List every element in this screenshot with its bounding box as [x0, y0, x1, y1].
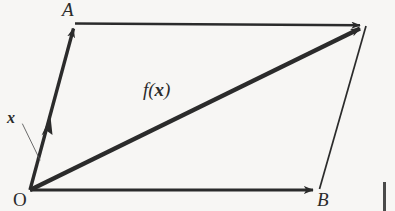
label-fx-prefix: f( — [143, 79, 155, 100]
label-output-vector-fx: f(x) — [143, 80, 170, 99]
vector-oa-line — [30, 29, 74, 191]
label-fx-argument: x — [155, 79, 165, 100]
label-input-vector-x: x — [7, 110, 15, 126]
label-origin: O — [13, 190, 27, 209]
right-edge-tick-mark — [383, 182, 386, 211]
vector-diagram-figure: A B O x f(x) — [0, 0, 395, 211]
leader-line-x — [23, 124, 41, 160]
vector-fx-line — [30, 29, 360, 191]
edge-a-to-c-line — [75, 24, 360, 26]
edge-b-to-c-line — [320, 26, 367, 189]
label-vertex-b: B — [317, 190, 329, 209]
label-vertex-a: A — [62, 0, 74, 19]
diagram-canvas — [0, 0, 395, 211]
label-fx-suffix: ) — [164, 79, 170, 100]
